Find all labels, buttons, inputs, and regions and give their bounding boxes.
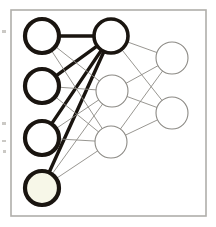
neuron-node-i2: [25, 69, 59, 103]
neuron-node-h3: [95, 126, 127, 158]
neuron-node-i1: [25, 19, 59, 53]
connection-edge: [126, 41, 158, 52]
connection-edge: [125, 65, 159, 84]
connection-edge: [55, 45, 98, 76]
connection-edge: [55, 150, 98, 179]
neuron-node-h1: [94, 19, 128, 53]
connection-edge: [126, 96, 158, 108]
figure-root: [0, 0, 216, 227]
neuron-node-o1: [156, 42, 188, 74]
connection-edge: [125, 119, 159, 135]
neuron-node-o2: [156, 97, 188, 129]
connection-edge: [120, 70, 163, 130]
neuron-node-i3: [25, 121, 59, 155]
node-layer: [25, 19, 188, 205]
connection-edge: [49, 51, 105, 174]
neuron-node-i4: [25, 171, 59, 205]
neural-network-diagram: [0, 0, 216, 227]
neuron-node-h2: [96, 75, 128, 107]
